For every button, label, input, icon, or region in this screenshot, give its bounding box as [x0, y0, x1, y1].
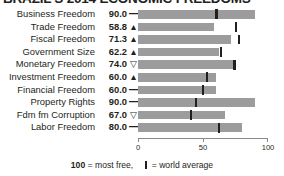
freedom-row-value: 90.0 [99, 96, 127, 109]
world-average-marker-icon [145, 161, 147, 169]
freedom-bar [138, 35, 231, 44]
axis-tick-label: 0 [126, 143, 150, 153]
world-average-marker [233, 60, 235, 70]
freedom-bar [138, 23, 214, 32]
freedom-row-label: Property Rights [30, 96, 95, 109]
freedom-bar [138, 60, 234, 69]
freedom-bar-track [138, 48, 268, 57]
freedom-row: Business Freedom90.0— [0, 8, 284, 21]
trend-down-icon: ▽ [129, 58, 138, 71]
freedom-row-label: Investment Freedom [9, 71, 95, 84]
world-average-marker [235, 22, 237, 32]
trend-flat-icon: — [129, 84, 138, 97]
freedom-bar-track [138, 10, 268, 19]
freedom-row-label: Fdm fm Corruption [17, 109, 95, 122]
freedom-row-label: Trade Freedom [31, 21, 95, 34]
freedom-bar-track [138, 35, 268, 44]
world-average-marker [190, 110, 192, 120]
freedom-row: Fiscal Freedom71.3▲ [0, 33, 284, 46]
freedom-row-label: Fiscal Freedom [30, 33, 95, 46]
freedom-bar [138, 10, 255, 19]
world-average-marker [195, 98, 197, 108]
axis-tick-label: 50 [191, 143, 215, 153]
freedom-row: Monetary Freedom74.0▽ [0, 58, 284, 71]
legend-scale-text: = most free, [85, 160, 133, 170]
freedom-row-label: Government Size [23, 46, 95, 59]
legend-average-text: = world average [149, 160, 213, 170]
world-average-marker [202, 85, 204, 95]
freedom-row: Labor Freedom80.0— [0, 121, 284, 134]
freedom-row: Property Rights90.0— [0, 96, 284, 109]
freedom-row: Government Size62.2▲ [0, 46, 284, 59]
freedom-bar-track [138, 98, 268, 107]
world-average-marker [218, 123, 220, 133]
freedom-bar-track [138, 73, 268, 82]
freedom-row: Fdm fm Corruption67.0▽ [0, 109, 284, 122]
freedom-bar [138, 48, 219, 57]
freedom-row-value: 67.0 [99, 109, 127, 122]
page-title: BRAZIL'S 2014 ECONOMIC FREEDOMS [3, 0, 251, 6]
chart-title-clipped: BRAZIL'S 2014 ECONOMIC FREEDOMS [0, 0, 284, 7]
freedom-row: Financial Freedom60.0— [0, 84, 284, 97]
freedom-row-label: Monetary Freedom [16, 58, 95, 71]
freedom-row-value: 62.2 [99, 46, 127, 59]
axis-tick-label: 100 [256, 143, 280, 153]
freedom-row-value: 58.8 [99, 21, 127, 34]
freedom-row-value: 80.0 [99, 121, 127, 134]
trend-up-icon: ▲ [129, 46, 138, 59]
freedom-row-value: 71.3 [99, 33, 127, 46]
world-average-marker [215, 9, 217, 19]
legend: 100 = most free, = world average [0, 158, 284, 172]
world-average-marker [220, 47, 222, 57]
trend-up-icon: ▲ [129, 21, 138, 34]
freedom-row-label: Business Freedom [17, 8, 95, 21]
trend-up-icon: ▲ [129, 33, 138, 46]
freedom-bar [138, 86, 216, 95]
freedom-row-value: 60.0 [99, 84, 127, 97]
freedom-row-value: 74.0 [99, 58, 127, 71]
economic-freedoms-chart: BRAZIL'S 2014 ECONOMIC FREEDOMS Business… [0, 0, 284, 176]
freedom-bar-track [138, 86, 268, 95]
freedom-row-value: 60.0 [99, 71, 127, 84]
legend-scale-value: 100 [71, 160, 85, 170]
world-average-marker [206, 72, 208, 82]
freedom-bar-track [138, 111, 268, 120]
freedom-bar-track [138, 123, 268, 132]
freedom-bar-track [138, 23, 268, 32]
freedom-bar [138, 111, 225, 120]
trend-flat-icon: — [129, 8, 138, 21]
freedom-bar [138, 123, 242, 132]
axis-tick [267, 138, 268, 142]
trend-up-icon: ▲ [129, 71, 138, 84]
freedom-rows: Business Freedom90.0—Trade Freedom58.8▲F… [0, 8, 284, 134]
axis-tick [203, 138, 204, 142]
world-average-marker [238, 35, 240, 45]
freedom-row-label: Labor Freedom [31, 121, 95, 134]
freedom-row: Investment Freedom60.0▲ [0, 71, 284, 84]
x-axis-ticklabels: 050100 [0, 143, 284, 154]
freedom-bar [138, 73, 216, 82]
freedom-row-label: Financial Freedom [17, 84, 95, 97]
trend-down-icon: ▽ [129, 109, 138, 122]
freedom-bar-track [138, 60, 268, 69]
trend-flat-icon: — [129, 96, 138, 109]
axis-tick [138, 138, 139, 142]
freedom-row-value: 90.0 [99, 8, 127, 21]
x-axis [138, 138, 268, 142]
trend-flat-icon: — [129, 121, 138, 134]
freedom-row: Trade Freedom58.8▲ [0, 21, 284, 34]
